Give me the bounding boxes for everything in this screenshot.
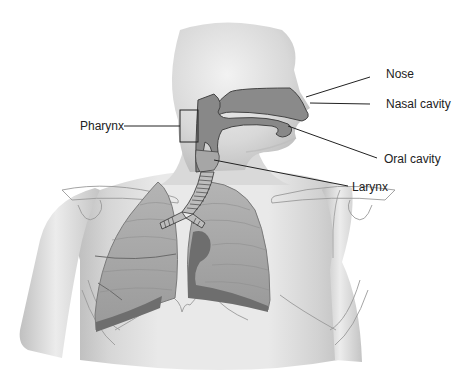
label-nose: Nose (386, 67, 414, 81)
leader-oral-cavity (288, 126, 377, 158)
label-oral-cavity: Oral cavity (384, 152, 441, 166)
leader-nasal-cavity (310, 103, 370, 104)
label-pharynx: Pharynx (80, 119, 124, 133)
label-nasal-cavity: Nasal cavity (386, 97, 451, 111)
leader-nose (306, 77, 370, 97)
label-larynx: Larynx (352, 180, 388, 194)
respiratory-diagram: Nose Nasal cavity Oral cavity Larynx Pha… (0, 0, 458, 390)
anatomy-illustration (0, 0, 458, 390)
